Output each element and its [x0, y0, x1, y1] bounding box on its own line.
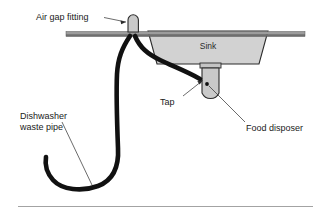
leader-dishwasher-waste-pipe [62, 122, 92, 185]
text-label-group: Air gap fitting Tap Food disposer Dishwa… [19, 12, 303, 133]
air-gap-fitting-body [128, 15, 138, 32]
countertop-surface [66, 32, 305, 35]
food-disposer-label: Food disposer [246, 123, 303, 133]
diagram-canvas: Air gap fitting sink and dishwasher wast… [0, 0, 325, 215]
air-gap-fitting-group [128, 15, 138, 32]
leader-food-disposer [209, 86, 245, 122]
tap-label: Tap [160, 97, 175, 107]
countertop-group [66, 32, 305, 37]
food-disposer-group [202, 68, 219, 99]
dishwasher-waste-pipe-label-line2: waste pipe [19, 122, 63, 132]
countertop-edge [66, 34, 305, 36]
leader-arrowhead-air-gap [121, 20, 127, 24]
food-disposer-port [205, 82, 209, 86]
sink-label: Sink [200, 41, 217, 51]
dishwasher-waste-pipe-label-line1: Dishwasher [20, 111, 67, 121]
food-disposer-body [202, 68, 219, 99]
disposer-flange [200, 63, 221, 68]
plumbing-diagram: Air gap fitting sink and dishwasher wast… [0, 0, 325, 215]
air-gap-fitting-label: Air gap fitting [36, 12, 89, 22]
disposer-neck-group [200, 63, 221, 68]
